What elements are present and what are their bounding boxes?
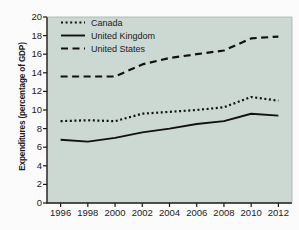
legend-item-united-kingdom: United Kingdom <box>60 29 155 42</box>
legend-key-united-states-icon <box>60 43 86 54</box>
legend-key-canada-icon <box>60 17 86 28</box>
legend-item-canada: Canada <box>60 16 155 29</box>
chart-legend: Canada United Kingdom United States <box>60 16 155 55</box>
chart-figure: Expenditures (percentage of GDP) 0246810… <box>0 0 299 230</box>
legend-label-united-kingdom: United Kingdom <box>91 31 155 41</box>
legend-key-united-kingdom-icon <box>60 30 86 41</box>
legend-item-united-states: United States <box>60 42 155 55</box>
legend-label-canada: Canada <box>91 18 123 28</box>
legend-label-united-states: United States <box>91 44 145 54</box>
